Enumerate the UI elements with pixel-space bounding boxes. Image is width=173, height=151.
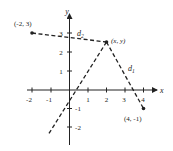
x-tick-label: 3 bbox=[122, 96, 126, 104]
bisector-line bbox=[48, 42, 107, 135]
x-tick-label: 4 bbox=[141, 96, 145, 104]
x-tick-label: -2 bbox=[26, 96, 32, 104]
y-tick-label: -1 bbox=[75, 105, 81, 113]
x-tick-label: 2 bbox=[105, 96, 109, 104]
point-p2 bbox=[142, 107, 146, 111]
point-p1 bbox=[30, 31, 34, 35]
coordinate-diagram: -2 -1 1 2 3 4 3 2 1 -1 -2 y x (-2, 3) (x… bbox=[0, 0, 173, 151]
x-tick-label: 1 bbox=[86, 96, 90, 104]
d1-label: d1 bbox=[128, 64, 135, 74]
point-p2-label: (4, -1) bbox=[124, 115, 142, 123]
y-tick-label: -2 bbox=[75, 124, 81, 132]
y-tick-label: 1 bbox=[59, 68, 63, 76]
x-axis-label: x bbox=[159, 86, 164, 95]
y-tick-label: 2 bbox=[59, 49, 63, 57]
y-axis-label: y bbox=[64, 7, 69, 16]
point-p1-label: (-2, 3) bbox=[14, 20, 32, 28]
point-p-label: (x, y) bbox=[111, 37, 126, 45]
x-tick-label: -1 bbox=[46, 96, 52, 104]
point-p bbox=[105, 40, 109, 44]
d2-label: d2 bbox=[77, 29, 84, 39]
